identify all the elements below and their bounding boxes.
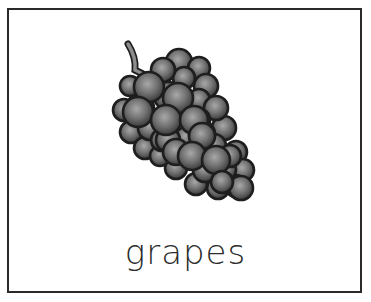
card-word: grapes (0, 232, 371, 272)
stem (128, 44, 146, 76)
